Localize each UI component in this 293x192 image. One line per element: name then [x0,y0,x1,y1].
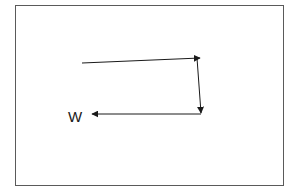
west-label: W [68,109,82,124]
arrow-path-diagram [0,0,293,192]
segment-south-arrow [197,58,201,113]
diagram-canvas: W [0,0,293,192]
segment-east-arrow [82,58,200,63]
